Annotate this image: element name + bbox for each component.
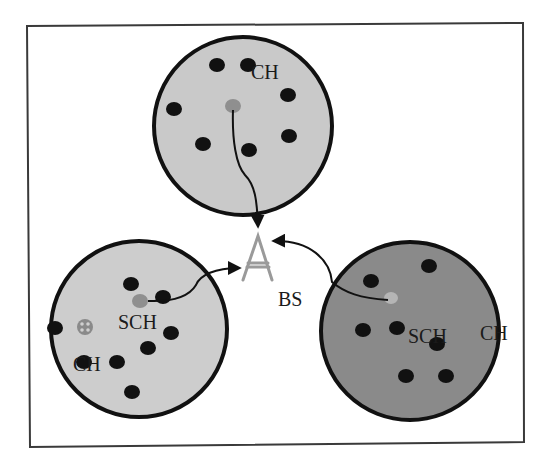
sensor-node	[398, 369, 414, 383]
sensor-node	[124, 385, 140, 399]
cluster-bottom-left: SCH CH	[47, 241, 227, 417]
cluster-bottom-right: SCH CH	[321, 242, 508, 420]
sensor-node	[355, 323, 371, 337]
base-station-label: BS	[278, 288, 302, 310]
sensor-node	[163, 326, 179, 340]
cluster-head-label: CH	[73, 353, 101, 375]
sensor-node	[109, 355, 125, 369]
sensor-node	[438, 369, 454, 383]
sub-cluster-head-label: SCH	[118, 311, 157, 333]
sensor-node	[47, 321, 63, 335]
cluster-diagram: CH SCH CH SCH	[0, 0, 545, 467]
sensor-node	[363, 274, 379, 288]
sensor-node	[195, 137, 211, 151]
cluster-head-label: CH	[480, 322, 508, 344]
sensor-node	[389, 321, 405, 335]
sub-cluster-head-node	[132, 294, 148, 308]
sensor-node	[280, 88, 296, 102]
sensor-node	[140, 341, 156, 355]
cluster-top: CH	[154, 37, 332, 215]
sub-cluster-head-label: SCH	[408, 325, 447, 347]
sensor-node	[281, 129, 297, 143]
cluster-head-node	[77, 319, 93, 335]
sub-cluster-head-node	[384, 292, 398, 304]
sensor-node	[241, 143, 257, 157]
base-station: BS	[243, 236, 302, 310]
sensor-node	[166, 102, 182, 116]
sensor-node	[123, 277, 139, 291]
cluster-head-label: CH	[251, 61, 279, 83]
sensor-node	[209, 58, 225, 72]
antenna-tower-icon	[243, 236, 272, 280]
sensor-node	[421, 259, 437, 273]
